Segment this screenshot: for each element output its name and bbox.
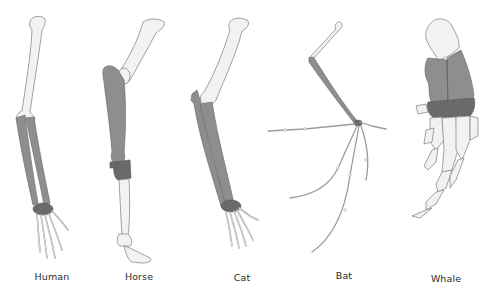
label-human: Human	[22, 271, 82, 282]
whale-limb	[412, 19, 478, 218]
cat-limb	[191, 18, 258, 248]
whale-radius	[447, 50, 474, 104]
human-humerus	[17, 16, 46, 121]
label-horse: Horse	[109, 271, 169, 282]
bat-limb	[268, 22, 386, 252]
bat-radius	[309, 57, 358, 124]
bat-digit-2	[268, 124, 355, 131]
bat-digit-3	[290, 126, 357, 198]
bat-thumb	[360, 122, 386, 129]
horse-hoof	[124, 246, 151, 263]
human-fingers	[37, 211, 68, 258]
whale-digits	[412, 104, 478, 218]
bat-digits	[268, 122, 386, 252]
label-cat: Cat	[212, 272, 272, 283]
human-carpals	[33, 203, 53, 215]
horse-limb	[103, 19, 165, 263]
bat-carpals	[354, 120, 362, 126]
label-bat: Bat	[314, 270, 374, 281]
cat-fingers	[226, 208, 258, 248]
horse-pastern	[117, 234, 131, 246]
human-limb	[16, 16, 68, 258]
homologous-limbs-figure: Human Horse Cat Bat Whale	[0, 0, 490, 294]
whale-ulna	[425, 58, 448, 104]
label-whale: Whale	[416, 273, 476, 284]
horse-carpal-small	[110, 162, 117, 168]
horse-radius-ulna	[103, 66, 126, 164]
bat-joints	[284, 128, 368, 212]
horse-cannon-bone	[119, 179, 130, 237]
limbs-illustration	[0, 0, 490, 294]
bat-digit-5	[361, 126, 368, 180]
cat-humerus	[200, 18, 248, 105]
bat-humerus	[311, 22, 342, 58]
